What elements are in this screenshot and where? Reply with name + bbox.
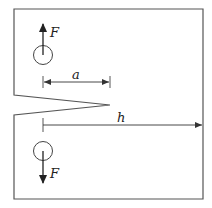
- diagram-canvas: F F a h: [0, 0, 212, 208]
- top-force-label: F: [49, 25, 60, 40]
- crack-length-label: a: [72, 67, 80, 82]
- width-dimension: h: [43, 110, 202, 132]
- width-label: h: [117, 110, 125, 125]
- bottom-load-point: F: [34, 142, 61, 184]
- crack-length-dimension: a: [43, 67, 110, 88]
- bottom-force-label: F: [49, 166, 60, 181]
- top-load-point: F: [34, 24, 61, 65]
